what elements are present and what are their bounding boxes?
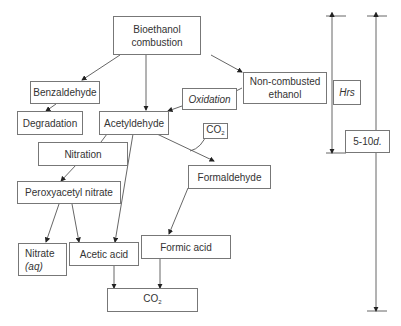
node-nitrate-aq: Nitrate (aq)	[18, 243, 67, 276]
node-peroxyacetyl-nitrate: Peroxyacetyl nitrate	[17, 181, 121, 204]
node-acetyldehyde-label: Acetyldehyde	[104, 117, 164, 130]
days-num: 5-10	[353, 136, 373, 147]
edge-oxidation-acetyldehyde	[168, 106, 182, 111]
node-bioethanol-line2: combustion	[131, 36, 182, 49]
oxidation-text: Oxidation	[188, 93, 230, 106]
hrs-text: Hrs	[339, 86, 355, 99]
edge-formaldehyde-formicacid	[169, 188, 188, 234]
co2-final-text: CO2	[143, 292, 161, 309]
node-benzaldehyde-label: Benzaldehyde	[33, 86, 96, 99]
days-text: 5-10d.	[353, 135, 381, 148]
node-acetyldehyde: Acetyldehyde	[99, 111, 169, 135]
node-nitration-label: Nitration	[64, 148, 101, 161]
co2-small-text: CO2	[206, 123, 224, 140]
node-bioethanol-combustion: Bioethanol combustion	[113, 16, 201, 55]
node-degradation-label: Degradation	[23, 117, 77, 130]
edge-nitration-pan	[61, 165, 76, 181]
node-co2-final: CO2	[107, 288, 198, 312]
node-degradation: Degradation	[17, 111, 83, 135]
node-pan-label: Peroxyacetyl nitrate	[25, 186, 113, 199]
node-non-combusted-ethanol: Non-combusted ethanol	[243, 72, 327, 104]
edge-bioethanol-benzaldehyde	[82, 55, 120, 80]
edge-bioethanol-noncombusted	[211, 55, 242, 72]
timescale-5-10d-label: 5-10d.	[345, 130, 390, 153]
node-formaldehyde: Formaldehyde	[188, 165, 271, 189]
node-co2-small: CO2	[203, 123, 228, 139]
node-nitration: Nitration	[38, 142, 128, 166]
edge-pan-nitrate	[46, 204, 59, 242]
node-formaldehyde-label: Formaldehyde	[198, 171, 262, 184]
node-benzaldehyde: Benzaldehyde	[30, 81, 100, 104]
edge-benzaldehyde-degradation	[46, 104, 56, 111]
edge-acetyldehyde-nitration	[101, 134, 107, 142]
timeline-5-10d	[367, 16, 387, 311]
node-acetic-acid: Acetic acid	[69, 242, 139, 266]
node-aceticacid-label: Acetic acid	[80, 248, 128, 261]
node-formic-acid: Formic acid	[141, 235, 231, 259]
node-formicacid-label: Formic acid	[160, 241, 212, 254]
node-bioethanol-line1: Bioethanol	[133, 23, 180, 36]
co2-final-main: CO	[143, 293, 158, 304]
node-nitrate-line2: (aq)	[25, 260, 43, 273]
days-unit: d.	[373, 136, 381, 147]
node-nitrate-line1: Nitrate	[25, 247, 54, 260]
node-oxidation-label: Oxidation	[182, 88, 237, 110]
timescale-hrs-label: Hrs	[333, 80, 361, 105]
co2-final-sub: 2	[158, 299, 161, 305]
co2-small-sub: 2	[221, 130, 224, 136]
node-noncombusted-line1: Non-combusted	[250, 75, 321, 88]
co2-small-main: CO	[206, 124, 221, 135]
edge-pan-aceticacid	[72, 204, 79, 242]
node-noncombusted-line2: ethanol	[269, 88, 302, 101]
